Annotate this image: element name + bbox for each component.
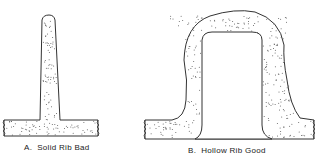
stipple-dot [266, 92, 267, 93]
stipple-dot [285, 17, 286, 18]
stipple-dot [181, 16, 182, 17]
stipple-dot [188, 127, 189, 128]
stipple-dot [195, 104, 196, 105]
stipple-dot [46, 82, 47, 83]
stipple-dot [44, 124, 45, 125]
stipple-dot [43, 42, 44, 43]
stipple-dot [48, 114, 49, 115]
stipple-dot [46, 92, 47, 93]
stipple-dot [290, 114, 291, 115]
stipple-dot [6, 128, 7, 129]
stipple-dot [9, 121, 10, 122]
stipple-dot [264, 68, 265, 69]
stipple-dot [273, 48, 274, 49]
stipple-dot [283, 109, 284, 110]
stipple-dot [56, 77, 57, 78]
stipple-dot [188, 48, 189, 49]
stipple-dot [275, 104, 276, 105]
stipple-dot [305, 125, 306, 126]
stipple-dot [45, 116, 46, 117]
stipple-dot [50, 21, 51, 22]
stipple-dot [51, 106, 52, 107]
stipple-dot [266, 62, 267, 63]
stipple-dot [282, 79, 283, 80]
stipple-dot [51, 77, 52, 78]
stipple-dot [48, 76, 49, 77]
stipple-dot [47, 108, 48, 109]
stipple-dot [45, 36, 46, 37]
stipple-dot [55, 134, 56, 135]
stipple-dot [50, 43, 51, 44]
stipple-dot [184, 126, 185, 127]
stipple-dot [201, 17, 202, 18]
stipple-dot [45, 60, 46, 61]
stipple-dot [251, 30, 252, 31]
stipple-dot [275, 53, 276, 54]
diagram-canvas [0, 0, 321, 159]
stipple-dot [284, 137, 285, 138]
stipple-dot [266, 19, 267, 20]
stipple-dot [281, 58, 282, 59]
stipple-dot [44, 99, 45, 100]
stipple-dot [279, 92, 280, 93]
stipple-dot [71, 124, 72, 125]
stipple-dot [271, 105, 272, 106]
stipple-dot [165, 127, 166, 128]
stipple-dot [45, 75, 46, 76]
stipple-dot [232, 21, 233, 22]
stipple-dot [34, 125, 35, 126]
stipple-dot [54, 124, 55, 125]
stipple-dot [55, 74, 56, 75]
stipple-dot [277, 37, 278, 38]
stipple-dot [267, 72, 268, 73]
stipple-dot [199, 77, 200, 78]
stipple-dot [277, 44, 278, 45]
stipple-dot [200, 53, 201, 54]
stipple-dot [21, 131, 22, 132]
stipple-dot [165, 128, 166, 129]
stipple-dot [200, 71, 201, 72]
stipple-dot [49, 101, 50, 102]
stipple-dot [150, 127, 151, 128]
stipple-dot [197, 16, 198, 17]
stipple-dot [47, 77, 48, 78]
stipple-dot [201, 30, 202, 31]
stipple-dot [29, 127, 30, 128]
stipple-dot [280, 105, 281, 106]
stipple-dot [269, 38, 270, 39]
stipple-dot [244, 23, 245, 24]
stipple-dot [195, 68, 196, 69]
caption-hollow-rib: B. Hollow Rib Good [188, 146, 266, 155]
stipple-dot [191, 78, 192, 79]
stipple-dot [171, 123, 172, 124]
stipple-dot [230, 30, 231, 31]
stipple-dot [178, 25, 179, 26]
stipple-dot [186, 121, 187, 122]
stipple-dot [283, 38, 284, 39]
stipple-dot [57, 125, 58, 126]
stipple-dot [32, 129, 33, 130]
stipple-dot [287, 118, 288, 119]
stipple-dot [266, 66, 267, 67]
stipple-dot [283, 137, 284, 138]
stipple-dot [229, 20, 230, 21]
stipple-dot [193, 75, 194, 76]
stipple-dot [277, 55, 278, 56]
stipple-dot [249, 17, 250, 18]
stipple-dot [47, 127, 48, 128]
stipple-dot [53, 66, 54, 67]
stipple-dot [268, 118, 269, 119]
stipple-dot [280, 131, 281, 132]
stipple-dot [186, 51, 187, 52]
stipple-dot [244, 22, 245, 23]
stipple-dot [43, 81, 44, 82]
stipple-dot [172, 129, 173, 130]
stipple-dot [47, 119, 48, 120]
stipple-dot [310, 121, 311, 122]
stipple-dot [93, 121, 94, 122]
stipple-dot [236, 27, 237, 28]
stipple-dot [237, 23, 238, 24]
stipple-dot [265, 83, 266, 84]
stipple-dot [170, 129, 171, 130]
stipple-dot [193, 61, 194, 62]
